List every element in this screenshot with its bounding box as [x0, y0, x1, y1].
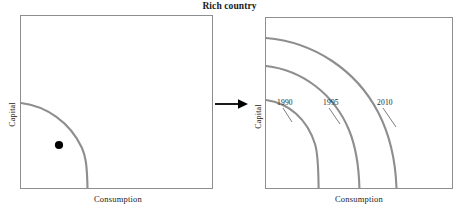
curve-label-1995: 1995: [323, 98, 339, 107]
curve-label-1990: 1990: [277, 98, 293, 107]
arrow-head-icon: [238, 99, 248, 109]
left-panel-x-axis-label: Consumption: [68, 194, 168, 204]
right-chart-panel: [265, 17, 453, 189]
curve-label-2010: 2010: [377, 98, 393, 107]
left-chart-panel: [20, 15, 213, 189]
figure-container: Rich country Capital Consumption Capit: [0, 0, 459, 215]
right-panel-x-axis-label: Consumption: [309, 194, 409, 204]
left-panel-y-axis-label: Capital: [8, 95, 17, 135]
transition-arrow: [215, 99, 248, 109]
right-panel-y-axis-label: Capital: [254, 97, 263, 137]
figure-title: Rich country: [0, 1, 459, 11]
